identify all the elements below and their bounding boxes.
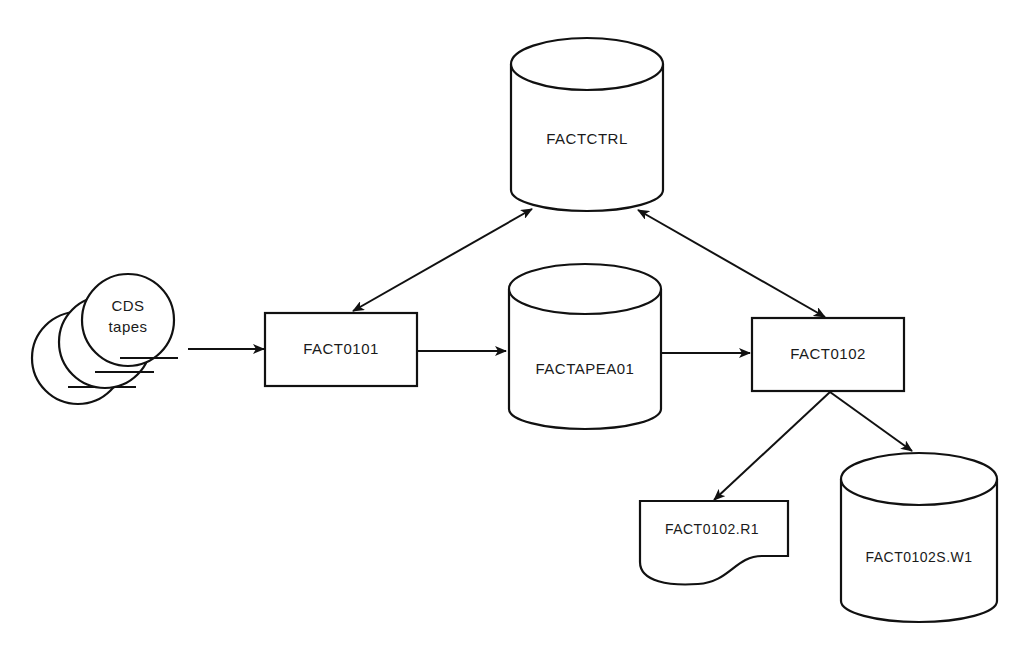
edge-fact0102-factctrl — [638, 210, 825, 317]
cds-tapes-label-line2: tapes — [108, 318, 147, 335]
cds-tapes-node: CDS tapes — [32, 274, 178, 404]
fact0102-r1-label: FACT0102.R1 — [665, 521, 759, 537]
factapea01-label: FACTAPEA01 — [536, 360, 635, 377]
fact0102-r1-document: FACT0102.R1 — [640, 501, 788, 584]
fact0101-process-box: FACT0101 — [265, 313, 417, 386]
factapea01-datastore: FACTAPEA01 — [509, 264, 661, 429]
factctrl-datastore: FACTCTRL — [511, 38, 663, 211]
fact0102s-w1-datastore: FACT0102S.W1 — [841, 453, 997, 622]
factctrl-label: FACTCTRL — [546, 130, 628, 147]
edge-fact0102-to-fact0102s-w1 — [830, 392, 912, 451]
edge-fact0102-to-report — [714, 392, 830, 500]
fact0102-label: FACT0102 — [790, 345, 866, 362]
fact0102s-w1-label: FACT0102S.W1 — [865, 549, 972, 565]
cds-tapes-label-line1: CDS — [111, 297, 144, 314]
fact0102-process-box: FACT0102 — [752, 318, 904, 391]
edge-fact0101-factctrl — [353, 209, 532, 311]
fact0101-label: FACT0101 — [303, 340, 379, 357]
system-flow-diagram: CDS tapes FACT0101 FACTCTRL FACTAPEA01 F… — [0, 0, 1019, 650]
